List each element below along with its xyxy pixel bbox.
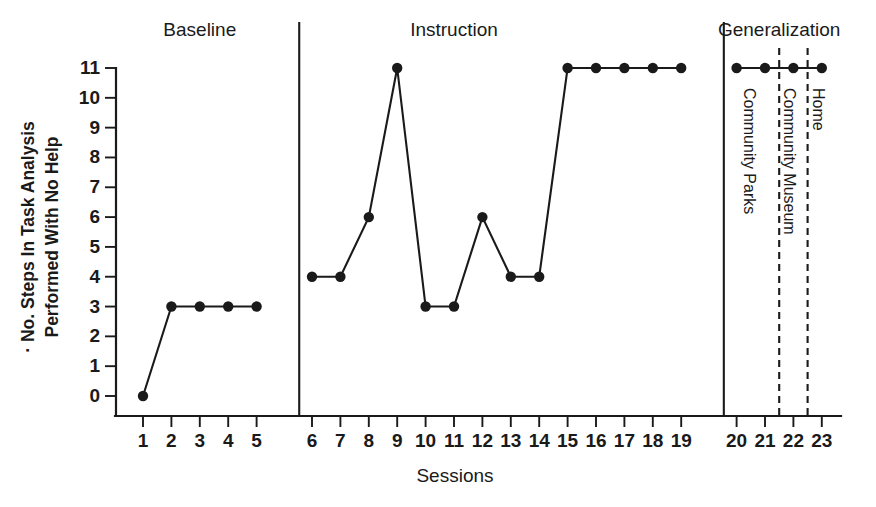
x-tick-label: 22 [783, 430, 804, 451]
condition-labels: Community ParksCommunity MuseumHome [741, 88, 828, 235]
x-tick-label: 6 [307, 430, 318, 451]
series-line-baseline [143, 307, 257, 396]
data-point [648, 63, 658, 73]
data-point [195, 301, 205, 311]
x-tick-label: 14 [529, 430, 551, 451]
data-point [788, 63, 798, 73]
data-point [223, 301, 233, 311]
y-axis-ticks [105, 68, 116, 396]
phase-dividers [299, 22, 724, 416]
data-point [591, 63, 601, 73]
condition-label-1: Community Museum [780, 88, 797, 235]
data-point [420, 301, 430, 311]
x-tick-label: 18 [642, 430, 663, 451]
x-tick-label: 5 [251, 430, 262, 451]
x-tick-label: 11 [444, 430, 465, 451]
x-tick-label: 8 [364, 430, 375, 451]
data-point [392, 63, 402, 73]
y-tick-label: 11 [80, 57, 101, 78]
x-axis-ticks [143, 416, 822, 427]
y-tick-label: 9 [89, 117, 100, 138]
y-tick-label: 7 [89, 176, 100, 197]
data-point [731, 63, 741, 73]
y-tick-label: 3 [89, 296, 100, 317]
condition-label-2: Home [810, 88, 827, 131]
data-point [619, 63, 629, 73]
chart-figure: · No. Steps In Task Analysis Performed W… [0, 0, 876, 507]
x-tick-label: 17 [614, 430, 635, 451]
data-point [676, 63, 686, 73]
phase-title-generalization: Generalization [718, 19, 841, 40]
data-point [166, 301, 176, 311]
x-axis-title: Sessions [416, 465, 493, 486]
data-point [562, 63, 572, 73]
x-tick-label: 19 [671, 430, 692, 451]
x-tick-label: 13 [500, 430, 521, 451]
y-tick-label: 2 [89, 325, 100, 346]
y-tick-label: 8 [89, 146, 100, 167]
y-tick-label: 10 [79, 87, 100, 108]
y-tick-label: 4 [89, 266, 100, 287]
x-axis-tick-labels: 1234567891011121314151617181920212223 [138, 430, 833, 451]
data-point [477, 212, 487, 222]
data-point [138, 391, 148, 401]
x-tick-label: 12 [472, 430, 493, 451]
x-tick-label: 4 [223, 430, 234, 451]
x-tick-label: 9 [392, 430, 403, 451]
y-tick-label: 1 [89, 355, 100, 376]
data-point [335, 272, 345, 282]
y-axis-title-line2: Performed With No Help [42, 136, 62, 337]
data-series [143, 68, 822, 396]
x-tick-label: 23 [811, 430, 832, 451]
data-point [449, 301, 459, 311]
condition-label-0: Community Parks [741, 88, 758, 214]
data-point [307, 272, 317, 282]
y-axis-title: · No. Steps In Task Analysis Performed W… [18, 121, 62, 353]
x-tick-label: 21 [754, 430, 776, 451]
phase-titles: BaselineInstructionGeneralization [163, 19, 840, 40]
y-tick-label: 5 [89, 236, 100, 257]
data-point [760, 63, 770, 73]
x-tick-label: 2 [166, 430, 177, 451]
phase-title-instruction: Instruction [410, 19, 498, 40]
x-tick-label: 1 [138, 430, 149, 451]
y-tick-label: 0 [89, 385, 100, 406]
x-tick-label: 7 [335, 430, 346, 451]
x-tick-label: 10 [415, 430, 436, 451]
x-tick-label: 20 [726, 430, 747, 451]
x-tick-label: 16 [585, 430, 606, 451]
y-tick-label: 6 [89, 206, 100, 227]
data-point [506, 272, 516, 282]
series-line-instruction [312, 68, 681, 307]
phase-title-baseline: Baseline [163, 19, 236, 40]
plot-axes [115, 68, 841, 416]
data-point [251, 301, 261, 311]
x-tick-label: 15 [557, 430, 579, 451]
data-point [534, 272, 544, 282]
y-axis-tick-labels: 01234567891011 [79, 57, 101, 406]
x-tick-label: 3 [195, 430, 206, 451]
data-point [817, 63, 827, 73]
data-point [364, 212, 374, 222]
chart-canvas: · No. Steps In Task Analysis Performed W… [0, 0, 876, 507]
y-axis-title-line1: · No. Steps In Task Analysis [18, 121, 38, 353]
